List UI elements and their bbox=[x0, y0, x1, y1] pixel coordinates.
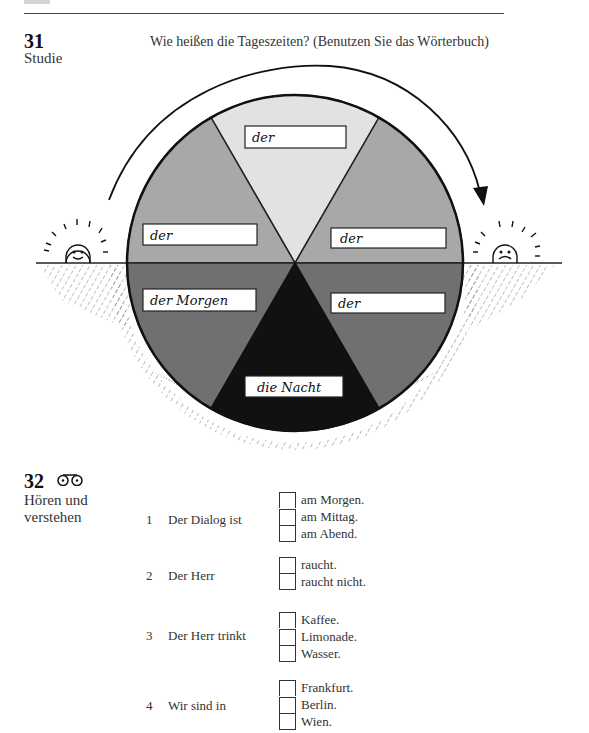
answer-checkbox[interactable] bbox=[279, 629, 296, 645]
question-1-options: am Morgen. am Mittag. am Abend. bbox=[279, 491, 364, 542]
label-bottom[interactable]: die Nacht bbox=[245, 376, 343, 397]
question-4-number: 4 bbox=[146, 698, 153, 714]
option-label: Frankfurt. bbox=[301, 680, 353, 696]
svg-text:der: der bbox=[252, 130, 275, 145]
option-row: raucht nicht. bbox=[279, 573, 366, 590]
label-lower-right[interactable]: der bbox=[331, 293, 445, 313]
option-label: Wasser. bbox=[301, 646, 341, 662]
option-label: am Mittag. bbox=[301, 509, 358, 525]
label-top[interactable]: der bbox=[245, 126, 346, 148]
option-label: Wien. bbox=[301, 714, 332, 730]
option-row: Limonade. bbox=[279, 628, 357, 645]
question-4-text: Wir sind in bbox=[168, 698, 226, 714]
exercise-32-number-text: 32 bbox=[24, 470, 44, 492]
label-upper-right[interactable]: der bbox=[331, 228, 446, 248]
option-row: Kaffee. bbox=[279, 611, 357, 628]
option-row: am Abend. bbox=[279, 525, 364, 542]
option-row: raucht. bbox=[279, 556, 366, 573]
question-3-text: Der Herr trinkt bbox=[168, 628, 246, 644]
cassette-icon bbox=[57, 468, 83, 491]
answer-checkbox[interactable] bbox=[279, 713, 296, 730]
svg-text:die Nacht: die Nacht bbox=[257, 380, 322, 395]
option-label: raucht. bbox=[301, 557, 337, 573]
svg-text:der: der bbox=[150, 228, 173, 243]
question-3-number: 3 bbox=[146, 628, 153, 644]
exercise-32-number: 32 bbox=[24, 468, 83, 493]
option-row: Berlin. bbox=[279, 696, 353, 713]
exercise-32-subtitle-line2: verstehen bbox=[24, 509, 81, 526]
question-3-options: Kaffee. Limonade. Wasser. bbox=[279, 611, 357, 662]
svg-text:der Morgen: der Morgen bbox=[150, 293, 228, 308]
answer-checkbox[interactable] bbox=[279, 697, 296, 713]
option-row: Frankfurt. bbox=[279, 679, 353, 696]
answer-checkbox[interactable] bbox=[279, 525, 296, 542]
answer-checkbox[interactable] bbox=[279, 645, 296, 662]
option-row: am Mittag. bbox=[279, 508, 364, 525]
question-4-options: Frankfurt. Berlin. Wien. bbox=[279, 679, 353, 730]
option-label: raucht nicht. bbox=[301, 574, 366, 590]
times-of-day-diagram: der der der der Morgen der die Nacht bbox=[0, 0, 589, 450]
option-label: am Abend. bbox=[301, 526, 357, 542]
label-lower-left[interactable]: der Morgen bbox=[143, 289, 256, 311]
svg-text:der: der bbox=[340, 231, 363, 246]
option-label: Berlin. bbox=[301, 697, 337, 713]
answer-checkbox[interactable] bbox=[279, 557, 296, 573]
answer-checkbox[interactable] bbox=[279, 492, 296, 508]
question-2-text: Der Herr bbox=[168, 568, 215, 584]
question-2-number: 2 bbox=[146, 568, 153, 584]
option-label: Limonade. bbox=[301, 629, 357, 645]
answer-checkbox[interactable] bbox=[279, 612, 296, 628]
question-2-options: raucht. raucht nicht. bbox=[279, 556, 366, 590]
exercise-32-subtitle-line1: Hören und bbox=[24, 492, 88, 509]
option-label: am Morgen. bbox=[301, 492, 364, 508]
question-1-number: 1 bbox=[146, 512, 153, 528]
svg-text:der: der bbox=[338, 296, 361, 311]
question-1-text: Der Dialog ist bbox=[168, 512, 242, 528]
answer-checkbox[interactable] bbox=[279, 573, 296, 590]
label-upper-left[interactable]: der bbox=[143, 224, 257, 245]
option-row: Wien. bbox=[279, 713, 353, 730]
option-row: am Morgen. bbox=[279, 491, 364, 508]
option-label: Kaffee. bbox=[301, 612, 339, 628]
smiling-sun-icon bbox=[44, 219, 108, 263]
option-row: Wasser. bbox=[279, 645, 357, 662]
sad-sun-icon bbox=[473, 221, 540, 263]
answer-checkbox[interactable] bbox=[279, 509, 296, 525]
answer-checkbox[interactable] bbox=[279, 680, 296, 696]
